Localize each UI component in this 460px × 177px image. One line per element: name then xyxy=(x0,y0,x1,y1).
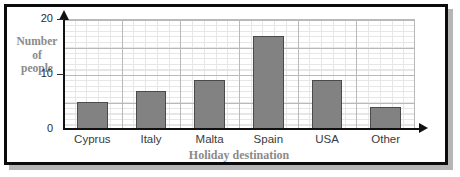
y-tick-20 xyxy=(57,19,64,20)
x-tick-label-usa: USA xyxy=(298,133,357,145)
y-axis-label-line-1: Number xyxy=(9,35,65,49)
y-tick-label-10: 10 xyxy=(23,67,53,79)
bar-usa xyxy=(312,80,343,130)
bar-other xyxy=(370,107,401,129)
x-axis-arrow-icon xyxy=(419,123,428,133)
x-axis-title: Holiday destination xyxy=(63,148,415,162)
bar-spain xyxy=(253,36,284,130)
plot-area xyxy=(63,19,415,129)
chart-figure-frame: Number of people 01020 CyprusItalyMaltaS… xyxy=(4,4,448,165)
x-tick-label-malta: Malta xyxy=(180,133,239,145)
bar-malta xyxy=(194,80,225,130)
x-axis-line xyxy=(63,128,420,130)
x-tick-label-italy: Italy xyxy=(122,133,181,145)
y-tick-label-20: 20 xyxy=(23,12,53,24)
y-tick-label-0: 0 xyxy=(23,122,53,134)
bar-italy xyxy=(136,91,167,130)
x-tick-label-spain: Spain xyxy=(239,133,298,145)
bar-series xyxy=(63,19,415,129)
x-tick-label-other: Other xyxy=(356,133,415,145)
y-axis-label-line-2: of xyxy=(9,49,65,63)
y-tick-10 xyxy=(57,74,64,75)
bar-cyprus xyxy=(77,102,108,130)
x-tick-label-cyprus: Cyprus xyxy=(63,133,122,145)
chart-canvas: Number of people 01020 CyprusItalyMaltaS… xyxy=(7,7,445,162)
